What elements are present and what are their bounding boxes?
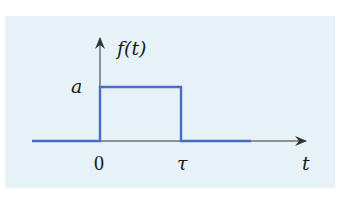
origin-label: 0 xyxy=(94,152,104,174)
pulse-end-label: τ xyxy=(177,152,188,174)
y-axis-label: f(t) xyxy=(115,37,147,59)
pulse-diagram: f(t) a 0 τ t xyxy=(0,0,345,203)
amplitude-label: a xyxy=(71,75,82,97)
x-axis-label: t xyxy=(302,152,310,174)
pulse-signal xyxy=(32,87,251,141)
